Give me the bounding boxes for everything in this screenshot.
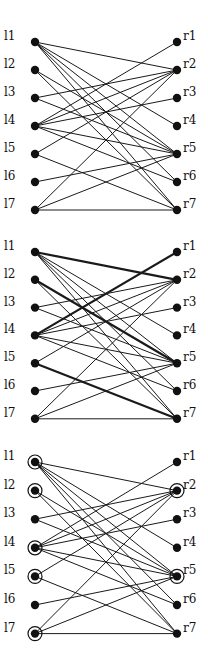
- node-l3: [31, 303, 39, 311]
- edge-l1-r2: [35, 252, 177, 280]
- label-r4: r4: [183, 322, 197, 336]
- node-l7: [31, 629, 39, 637]
- node-l5: [31, 150, 39, 158]
- edge-l3-r5: [35, 519, 177, 576]
- node-r3: [173, 94, 181, 102]
- label-l6: l6: [4, 592, 15, 606]
- edge-l6-r5: [35, 154, 177, 182]
- label-l2: l2: [4, 267, 15, 281]
- node-l6: [31, 178, 39, 186]
- node-r1: [173, 248, 181, 256]
- label-l7: l7: [4, 621, 15, 635]
- edge-l4-r2: [35, 280, 177, 336]
- node-r6: [173, 178, 181, 186]
- panel-vertex-cover: l1l2l3l4l5l6l7r1r2r3r4r5r6r7: [4, 449, 197, 641]
- label-r4: r4: [183, 113, 197, 127]
- label-l5: l5: [4, 350, 15, 364]
- node-r7: [173, 206, 181, 214]
- node-l7: [31, 415, 39, 423]
- node-l1: [31, 38, 39, 46]
- node-l2: [31, 276, 39, 284]
- label-r2: r2: [183, 267, 196, 281]
- label-l3: l3: [4, 295, 15, 309]
- edge-l3-r5: [35, 308, 177, 364]
- edge-l4-r2: [35, 491, 177, 548]
- edge-l4-r2: [35, 70, 177, 126]
- node-l2: [31, 486, 39, 494]
- bipartite-graph-figure: l1l2l3l4l5l6l7r1r2r3r4r5r6r7l1l2l3l4l5l6…: [0, 0, 208, 669]
- label-r6: r6: [183, 592, 196, 606]
- edge-l6-r5: [35, 363, 177, 391]
- node-r6: [173, 601, 181, 609]
- panel-graph: l1l2l3l4l5l6l7r1r2r3r4r5r6r7: [4, 29, 197, 214]
- node-l5: [31, 572, 39, 580]
- label-r7: r7: [183, 621, 196, 635]
- node-r5: [173, 150, 181, 158]
- label-r1: r1: [183, 449, 196, 463]
- node-l6: [31, 387, 39, 395]
- edge-l1-r2: [35, 462, 177, 491]
- label-r2: r2: [183, 57, 196, 71]
- label-l1: l1: [4, 239, 15, 253]
- label-r3: r3: [183, 295, 196, 309]
- node-r2: [173, 486, 181, 494]
- node-l3: [31, 515, 39, 523]
- node-r5: [173, 572, 181, 580]
- edge-l4-r6: [35, 548, 177, 605]
- label-l1: l1: [4, 449, 15, 463]
- label-r5: r5: [183, 563, 196, 577]
- node-r1: [173, 458, 181, 466]
- edge-l6-r5: [35, 576, 177, 605]
- node-l2: [31, 66, 39, 74]
- label-l7: l7: [4, 406, 15, 420]
- edge-l3-r5: [35, 98, 177, 154]
- label-l6: l6: [4, 169, 15, 183]
- node-r5: [173, 359, 181, 367]
- label-l3: l3: [4, 85, 15, 99]
- label-r1: r1: [183, 29, 196, 43]
- label-l4: l4: [4, 322, 16, 336]
- node-l1: [31, 458, 39, 466]
- node-r2: [173, 66, 181, 74]
- label-l7: l7: [4, 197, 15, 211]
- label-l5: l5: [4, 141, 15, 155]
- node-r4: [173, 331, 181, 339]
- label-r6: r6: [183, 378, 196, 392]
- panel-matching: l1l2l3l4l5l6l7r1r2r3r4r5r6r7: [4, 239, 197, 423]
- label-l1: l1: [4, 29, 15, 43]
- node-r3: [173, 303, 181, 311]
- node-l7: [31, 206, 39, 214]
- node-r4: [173, 544, 181, 552]
- label-r3: r3: [183, 506, 196, 520]
- node-r7: [173, 629, 181, 637]
- label-l2: l2: [4, 478, 15, 492]
- label-r2: r2: [183, 478, 196, 492]
- label-r5: r5: [183, 350, 196, 364]
- node-l6: [31, 601, 39, 609]
- label-l4: l4: [4, 535, 16, 549]
- label-r1: r1: [183, 239, 196, 253]
- edge-l4-r6: [35, 126, 177, 182]
- label-l6: l6: [4, 378, 15, 392]
- label-r5: r5: [183, 141, 196, 155]
- label-l3: l3: [4, 506, 15, 520]
- label-r4: r4: [183, 535, 197, 549]
- label-r3: r3: [183, 85, 196, 99]
- label-r6: r6: [183, 169, 196, 183]
- node-r7: [173, 415, 181, 423]
- node-l5: [31, 359, 39, 367]
- edge-l4-r6: [35, 335, 177, 391]
- label-l2: l2: [4, 57, 15, 71]
- label-l5: l5: [4, 563, 15, 577]
- node-l3: [31, 94, 39, 102]
- node-r6: [173, 387, 181, 395]
- label-l4: l4: [4, 113, 16, 127]
- node-l4: [31, 122, 39, 130]
- edge-l1-r2: [35, 42, 177, 70]
- node-l4: [31, 331, 39, 339]
- node-l1: [31, 248, 39, 256]
- node-r4: [173, 122, 181, 130]
- node-r3: [173, 515, 181, 523]
- node-r2: [173, 276, 181, 284]
- label-r7: r7: [183, 406, 196, 420]
